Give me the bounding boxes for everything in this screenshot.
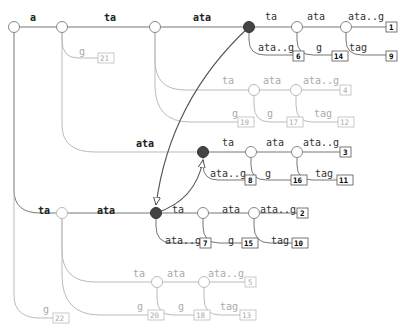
- internal-node-light: [152, 277, 163, 288]
- internal-node: [341, 22, 352, 33]
- edge-label: tag: [220, 301, 238, 312]
- internal-node-light: [291, 85, 302, 96]
- leaf-number: 19: [240, 118, 249, 127]
- edge-label: ta: [265, 11, 277, 22]
- internal-node: [292, 22, 303, 33]
- edge-label: ta: [133, 268, 145, 279]
- leaf-number: 2: [300, 209, 305, 218]
- leaf-number: 6: [296, 52, 301, 61]
- edge-label: ata: [222, 204, 240, 215]
- edge-labels: a ta ata ta ata ata..g ata..g g tag g ta…: [30, 11, 384, 315]
- edge-label: ta: [222, 137, 234, 148]
- edge-label: ata..g: [208, 268, 244, 279]
- edge-label: ata..g: [258, 42, 294, 53]
- leaf-number: 3: [343, 148, 348, 157]
- leaf-number: 10: [294, 239, 304, 248]
- leaf-number: 12: [340, 118, 349, 127]
- leaf-number: 1: [389, 23, 394, 32]
- edge-label: tag: [315, 168, 333, 179]
- leaf-number: 7: [203, 239, 208, 248]
- edge-label: g: [178, 301, 184, 312]
- edge-label: g: [79, 46, 85, 57]
- internal-node-light: [57, 208, 68, 219]
- leaf-number: 18: [196, 311, 206, 320]
- edge-label: ata..g: [348, 11, 384, 22]
- internal-node-light: [249, 85, 260, 96]
- internal-node: [150, 22, 161, 33]
- edge-label: ata: [136, 138, 154, 149]
- leaf-number: 20: [150, 311, 160, 320]
- leaf-number: 22: [55, 314, 64, 323]
- internal-node: [198, 208, 209, 219]
- edge-label: ta: [222, 75, 234, 86]
- edge-label: ata..g: [303, 137, 339, 148]
- edge-label: ata..g: [303, 75, 339, 86]
- leaf-number: 9: [389, 52, 394, 61]
- edge-label: g: [137, 301, 143, 312]
- edge-label: ta: [172, 204, 184, 215]
- filled-node: [151, 208, 162, 219]
- edge-label: tag: [349, 42, 367, 53]
- edge-label: ata: [307, 11, 325, 22]
- filled-node: [244, 22, 255, 33]
- edge-label: g: [316, 42, 322, 53]
- edge-label: ata..g: [165, 235, 201, 246]
- edge-label: ta: [104, 12, 116, 23]
- tree-edges-light: [62, 27, 340, 315]
- suffix-links: [156, 27, 249, 213]
- leaf-number: 13: [242, 311, 251, 320]
- leaf-number: 17: [289, 118, 298, 127]
- edge-label: tag: [271, 235, 289, 246]
- edge-label: tag: [314, 108, 332, 119]
- edge-label: ta: [38, 205, 50, 216]
- edge-label: ata: [263, 75, 281, 86]
- edge-label: ata..g: [210, 168, 246, 179]
- internal-node: [249, 208, 260, 219]
- root-node: [9, 22, 20, 33]
- edge-label: g: [232, 108, 238, 119]
- edge-label: ata..g: [260, 204, 296, 215]
- leaf-number: 11: [339, 176, 349, 185]
- internal-node: [57, 22, 68, 33]
- internal-node: [246, 147, 257, 158]
- edge-label: g: [267, 108, 273, 119]
- edge-label: g: [228, 235, 234, 246]
- internal-node: [292, 147, 303, 158]
- edge-label: ata: [193, 12, 211, 23]
- filled-node: [198, 147, 209, 158]
- edge-label: ata: [167, 268, 185, 279]
- leaf-number: 5: [248, 278, 253, 287]
- edge-label: ata: [266, 137, 284, 148]
- edge-label: g: [43, 304, 49, 315]
- leaf-number: 14: [334, 52, 344, 61]
- edge-label: a: [30, 12, 36, 23]
- edge-label: g: [265, 168, 271, 179]
- leaf-number: 16: [293, 176, 303, 185]
- suffix-tree-diagram: a ta ata ta ata ata..g ata..g g tag g ta…: [0, 0, 403, 331]
- leaf-number: 4: [343, 86, 348, 95]
- edge-label: ata: [97, 205, 115, 216]
- leaf-number: 21: [100, 54, 109, 63]
- leaf-number: 8: [248, 176, 253, 185]
- leaf-number: 15: [244, 239, 253, 248]
